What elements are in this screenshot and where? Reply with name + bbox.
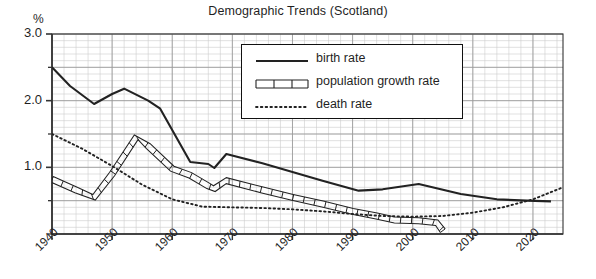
- legend-swatch-dotted: [252, 96, 310, 118]
- legend-label-population-growth-rate: population growth rate: [316, 74, 440, 88]
- y-axis-tick-label: 3.0: [8, 25, 42, 40]
- chart-root: Demographic Trends (Scotland) % 1.02.03.…: [0, 0, 596, 279]
- y-axis-tick-label: 2.0: [8, 92, 42, 107]
- y-axis-tick-label: 1.0: [8, 158, 42, 173]
- legend-swatch-solid: [252, 50, 310, 72]
- legend-swatch-ladder: [252, 73, 310, 95]
- legend-item-population-growth-rate: population growth rate: [250, 73, 458, 95]
- legend-label-death-rate: death rate: [316, 97, 372, 111]
- legend-label-birth-rate: birth rate: [316, 51, 365, 65]
- legend-item-birth-rate: birth rate: [250, 50, 458, 72]
- chart-legend: birth rate population growth rate death …: [241, 44, 463, 119]
- legend-item-death-rate: death rate: [250, 96, 458, 118]
